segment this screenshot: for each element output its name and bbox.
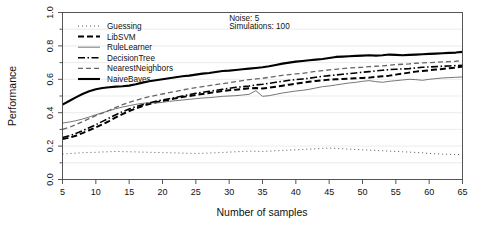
legend-label-decisiontree: DecisionTree	[107, 54, 155, 63]
legend-label-guessing: Guessing	[107, 22, 142, 31]
performance-vs-samples-line-chart: Performance Number of samples 0.00.20.40…	[0, 0, 477, 240]
series-line-guessing	[63, 148, 463, 155]
chart-legend: GuessingLibSVMRuleLearnerDecisionTreeNea…	[78, 22, 173, 84]
x-axis-title: Number of samples	[216, 206, 307, 218]
x-tick-label: 5	[60, 187, 65, 197]
legend-label-libsvm: LibSVM	[107, 33, 136, 42]
x-axis-ticks	[63, 180, 463, 185]
x-tick-label: 25	[191, 187, 201, 197]
x-tick-label: 30	[224, 187, 234, 197]
x-tick-label: 60	[424, 187, 434, 197]
chart-figure: Performance Number of samples 0.00.20.40…	[0, 0, 477, 240]
x-tick-label: 10	[91, 187, 101, 197]
legend-label-naivebayes: NaiveBayes	[107, 75, 151, 84]
x-tick-label: 15	[124, 187, 134, 197]
y-tick-label: 0.6	[45, 73, 55, 86]
y-tick-label: 0.2	[45, 140, 55, 153]
y-tick-label: 0.0	[45, 173, 55, 186]
legend-label-rulelearner: RuleLearner	[107, 43, 152, 52]
annotation-text: Simulations: 100	[229, 22, 290, 31]
x-tick-label: 40	[291, 187, 301, 197]
x-tick-label: 65	[457, 187, 467, 197]
legend-label-nearestneighbors: NearestNeighbors	[107, 64, 173, 73]
y-axis-ticks	[58, 13, 63, 180]
x-tick-label: 50	[357, 187, 367, 197]
chart-annotations: Noise: 5Simulations: 100	[229, 14, 290, 31]
y-tick-label: 0.4	[45, 106, 55, 119]
x-tick-label: 35	[257, 187, 267, 197]
x-axis-tick-labels: 5101520253035404550556065	[60, 187, 468, 197]
x-tick-label: 20	[157, 187, 167, 197]
x-tick-label: 45	[324, 187, 334, 197]
y-axis-title: Performance	[6, 66, 18, 126]
y-tick-label: 0.8	[45, 40, 55, 53]
y-tick-label: 1.0	[45, 6, 55, 19]
x-tick-label: 55	[391, 187, 401, 197]
y-axis-tick-labels: 0.00.20.40.60.81.0	[45, 6, 55, 186]
